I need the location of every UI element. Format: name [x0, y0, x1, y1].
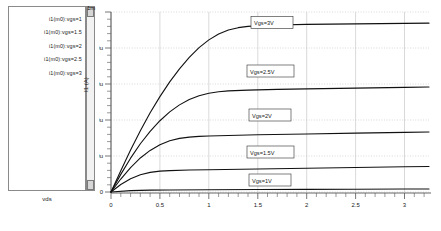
annotation-label: Vgs=3V: [254, 20, 274, 26]
plot-area: I1 (A) 1m: [99, 6, 435, 211]
x-tick-label: 0: [109, 202, 113, 208]
annotation-vgs1[interactable]: Vgs=1V: [249, 174, 291, 186]
x-tick-label: 1.5: [254, 202, 263, 208]
plot-background: [111, 12, 429, 192]
legend-item[interactable]: i1(m0):vgs=3: [9, 67, 85, 80]
y-axis-title: I1 (A): [83, 77, 89, 92]
annotation-vgs2[interactable]: Vgs=2V: [249, 109, 291, 121]
legend-axis-name: vds: [8, 196, 86, 202]
y-tick-label: 600u: [99, 81, 103, 87]
legend-item[interactable]: i1(m0):vgs=2.5: [9, 53, 85, 66]
x-tick-label: 1: [207, 202, 211, 208]
y-tick-label: 800u: [99, 45, 103, 51]
legend-panel: i1(m0):vgs=1 i1(m0):vgs=1.5 i1(m0):vgs=2…: [8, 6, 86, 191]
x-major-ticks: [111, 193, 405, 199]
annotation-label: Vgs=2.5V: [250, 69, 275, 75]
annotation-label: Vgs=2V: [252, 113, 272, 119]
y-minor-ticks: [107, 19, 111, 185]
y-tick-label: 400u: [99, 117, 103, 123]
chart-window: i1(m0):vgs=1 i1(m0):vgs=1.5 i1(m0):vgs=2…: [0, 0, 441, 231]
y-tick-label: 0: [100, 189, 104, 195]
x-tick-label: 3: [403, 202, 407, 208]
annotation-vgs15[interactable]: Vgs=1.5V: [247, 146, 294, 158]
x-tick-label: 2: [305, 202, 309, 208]
annotation-label: Vgs=1.5V: [250, 150, 275, 156]
legend-item[interactable]: i1(m0):vgs=1.5: [9, 26, 85, 39]
y-tick-label: 200u: [99, 153, 103, 159]
legend-scrollbar[interactable]: [86, 6, 95, 191]
legend-item[interactable]: i1(m0):vgs=1: [9, 13, 85, 26]
y-major-ticks: [105, 12, 111, 192]
annotation-label: Vgs=1V: [252, 178, 272, 184]
x-minor-ticks: [121, 193, 424, 197]
y-axis-top-label: 1m: [87, 5, 95, 11]
legend-list: i1(m0):vgs=1 i1(m0):vgs=1.5 i1(m0):vgs=2…: [9, 13, 85, 80]
chart-svg: 0 200u 400u 600u 800u: [99, 6, 435, 211]
annotation-vgs25[interactable]: Vgs=2.5V: [247, 65, 294, 77]
legend-item[interactable]: i1(m0):vgs=2: [9, 40, 85, 53]
annotation-vgs3[interactable]: Vgs=3V: [251, 17, 293, 29]
scroll-thumb-down[interactable]: [87, 180, 94, 190]
x-tick-label: 2.5: [351, 202, 360, 208]
x-tick-label: 0.5: [156, 202, 165, 208]
